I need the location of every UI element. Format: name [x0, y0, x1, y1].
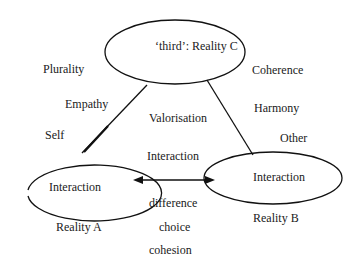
- edge-b-c: [207, 80, 253, 155]
- label-valorisation: Valorisation: [149, 111, 207, 125]
- label-self: Self: [45, 128, 64, 142]
- label-other: Other: [280, 131, 307, 145]
- label-coherence: Coherence: [252, 63, 303, 77]
- arrowhead-right-icon: [205, 176, 215, 184]
- reality-a-caption: Reality A: [56, 220, 102, 234]
- reality-c-label: ‘third’: Reality C: [155, 39, 238, 53]
- reality-b-label: Interaction: [253, 170, 305, 184]
- label-choice: choice: [159, 220, 190, 234]
- edge-a-c-thick: [84, 126, 108, 152]
- reality-a-label: Interaction: [49, 180, 101, 194]
- label-harmony: Harmony: [254, 101, 299, 115]
- arrowhead-left-icon: [133, 176, 143, 184]
- label-interaction-edge: Interaction: [147, 149, 199, 163]
- label-difference: difference: [149, 196, 197, 210]
- reality-b-caption: Reality B: [253, 211, 299, 225]
- label-empathy: Empathy: [65, 97, 108, 111]
- label-plurality: Plurality: [43, 62, 84, 76]
- label-cohesion: cohesion: [149, 243, 192, 257]
